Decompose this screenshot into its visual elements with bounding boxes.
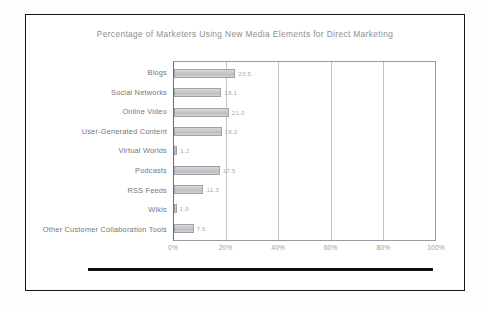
bar xyxy=(174,69,235,78)
bar-value-label: 18.1 xyxy=(224,89,237,96)
bar-value-label: 18.2 xyxy=(225,128,238,135)
bar xyxy=(174,108,229,117)
x-tick-label: 60% xyxy=(324,244,338,251)
chart-frame: Percentage of Marketers Using New Media … xyxy=(25,14,465,291)
bar-row: 21.0 xyxy=(174,108,435,117)
bar-row: 1.2 xyxy=(174,146,435,155)
plot-area: 23.518.121.018.21.217.511.31.07.5 xyxy=(173,61,436,241)
bar-row: 23.5 xyxy=(174,69,435,78)
bar-row: 17.5 xyxy=(174,166,435,175)
bar-series: 23.518.121.018.21.217.511.31.07.5 xyxy=(174,62,435,240)
x-tick-label: 40% xyxy=(271,244,285,251)
category-label: Online Video xyxy=(26,107,171,116)
x-tick-label: 80% xyxy=(376,244,390,251)
bar xyxy=(174,127,222,136)
bar-value-label: 1.2 xyxy=(180,147,189,154)
category-label: Blogs xyxy=(26,68,171,77)
scanned-page: Percentage of Marketers Using New Media … xyxy=(0,0,488,309)
category-label: Virtual Worlds xyxy=(26,146,171,155)
bar-value-label: 23.5 xyxy=(238,70,251,77)
bar-value-label: 1.0 xyxy=(180,205,189,212)
bar-value-label: 7.5 xyxy=(197,225,206,232)
bar-value-label: 21.0 xyxy=(232,109,245,116)
x-axis-tick-labels: 0%20%40%60%80%100% xyxy=(173,244,436,256)
bar xyxy=(174,166,220,175)
bar-row: 7.5 xyxy=(174,224,435,233)
category-label: RSS Feeds xyxy=(26,186,171,195)
bar xyxy=(174,146,177,155)
x-tick-label: 20% xyxy=(219,244,233,251)
x-tick-label: 100% xyxy=(427,244,445,251)
bar xyxy=(174,185,203,194)
category-label: Wikis xyxy=(26,205,171,214)
gridline xyxy=(435,62,436,240)
chart-title: Percentage of Marketers Using New Media … xyxy=(26,29,464,39)
bar xyxy=(174,204,177,213)
category-label: Social Networks xyxy=(26,88,171,97)
bar-row: 1.0 xyxy=(174,204,435,213)
bar-value-label: 11.3 xyxy=(206,186,218,193)
bar-row: 11.3 xyxy=(174,185,435,194)
category-label: Other Customer Collaboration Tools xyxy=(26,225,171,234)
bar-row: 18.2 xyxy=(174,127,435,136)
bar-value-label: 17.5 xyxy=(223,167,236,174)
x-tick-label: 0% xyxy=(168,244,178,251)
bar xyxy=(174,88,221,97)
category-axis-labels: BlogsSocial NetworksOnline VideoUser-Gen… xyxy=(26,61,171,241)
bar-row: 18.1 xyxy=(174,88,435,97)
bottom-rule xyxy=(88,268,433,271)
category-label: Podcasts xyxy=(26,166,171,175)
bar xyxy=(174,224,194,233)
category-label: User-Generated Content xyxy=(26,127,171,136)
